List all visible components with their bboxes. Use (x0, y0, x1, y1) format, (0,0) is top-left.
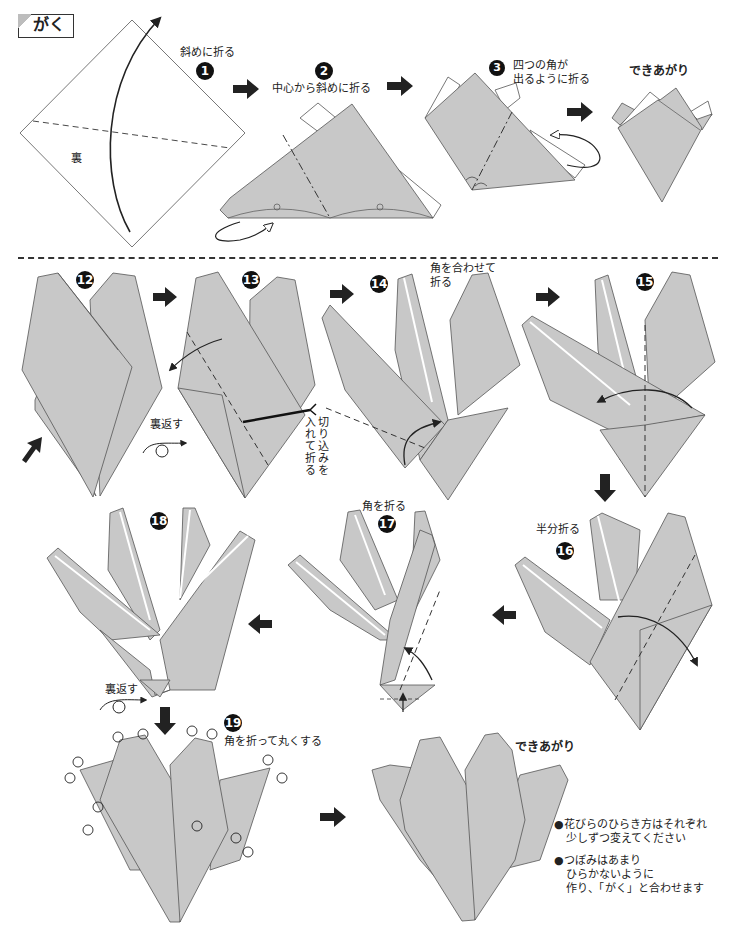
next-arrow-1 (233, 79, 259, 99)
step-16-instruction: 半分折る (536, 523, 580, 537)
step-3-number: 3 (489, 60, 505, 76)
step-15-number: 15 (636, 273, 654, 291)
step-13-instruction-col1: 切り込みを (316, 416, 329, 476)
bottom-finished-label: できあがり (515, 740, 575, 754)
note-2-line2: ひらかないように (566, 868, 654, 882)
bottom-finished-diagram (372, 733, 568, 921)
next-arrow-7 (320, 807, 346, 827)
step-14-diagram (322, 273, 520, 500)
step-16-diagram (515, 513, 712, 730)
top-finished-diagram (612, 88, 712, 202)
next-arrow-4 (153, 287, 177, 307)
folding-diagram (0, 0, 738, 939)
step-13-number: 13 (242, 271, 260, 289)
step-2-number: 2 (315, 62, 333, 80)
back-side-label: 裏 (71, 152, 82, 166)
step-14-instruction-line2: 折る (430, 276, 452, 290)
next-arrow-6 (536, 287, 560, 307)
step-3-instruction-line2: 出るように折る (513, 73, 590, 87)
step-3-instruction-line1: 四つの角が (513, 59, 568, 73)
next-arrow-3 (567, 102, 593, 122)
note-1-line2: 少しずつ変えてください (566, 832, 686, 846)
step-2-instruction: 中心から斜めに折る (272, 82, 371, 96)
step-12-diagram (22, 273, 162, 497)
step-19-instruction: 角を折って丸くする (224, 735, 322, 749)
step-19-number: 19 (224, 714, 242, 732)
prev-arrow-2 (248, 614, 272, 634)
step-16-number: 16 (556, 542, 574, 560)
step-14-instruction-line1: 角を合わせて (430, 262, 496, 276)
step-12-number: 12 (76, 271, 94, 289)
flip-icon-18 (100, 700, 146, 713)
note-2-line1: ●つぼみはあまり (554, 854, 641, 868)
step-19-diagram (65, 726, 287, 922)
pointer-arrow (22, 437, 42, 463)
top-finished-label: できあがり (629, 64, 689, 78)
step-2-diagram (216, 103, 441, 241)
section-divider (18, 257, 718, 259)
down-arrow-2 (154, 707, 176, 735)
step-13-instruction-col2: 入れて折る (303, 416, 316, 476)
next-arrow-5 (330, 284, 354, 304)
step-18-diagram (47, 508, 255, 697)
step-3-diagram (425, 73, 600, 190)
flip-icon-13 (143, 443, 186, 457)
step-1-instruction: 斜めに折る (180, 46, 235, 60)
next-arrow-2 (387, 76, 413, 96)
step-14-number: 14 (370, 275, 388, 293)
note-2-line3: 作り、「がく」と合わせます (566, 882, 704, 896)
note-1-line1: ●花びらのひらき方はそれぞれ (554, 818, 707, 832)
step-18-number: 18 (150, 512, 168, 530)
step-17-instruction: 角を折る (362, 500, 406, 514)
step-17-diagram (288, 510, 440, 712)
prev-arrow-1 (492, 605, 516, 625)
step-13-flip-label: 裏返す (150, 418, 183, 432)
down-arrow-1 (594, 474, 616, 502)
step-17-number: 17 (378, 515, 396, 533)
step-13-diagram (170, 272, 316, 498)
step-18-flip-label: 裏返す (105, 683, 138, 697)
step-1-number: 1 (196, 62, 214, 80)
step-15-diagram (522, 272, 715, 497)
